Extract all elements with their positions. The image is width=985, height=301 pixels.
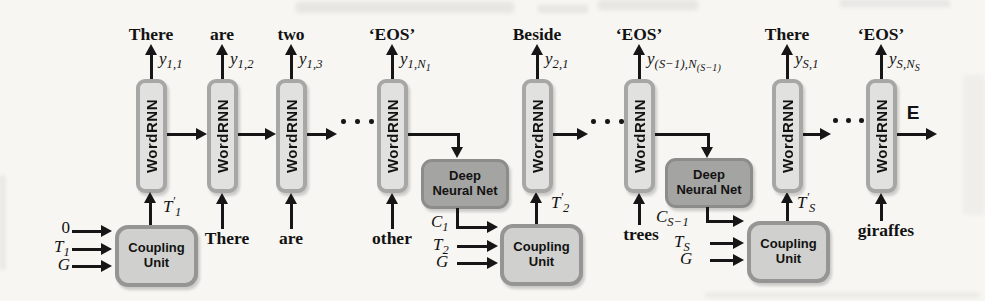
wordrnn-label: WordRNN <box>384 99 401 173</box>
arrow-line <box>638 54 641 79</box>
arrow-line <box>290 54 293 79</box>
deep-neural-net-2: Deep Neural Net <box>665 158 753 208</box>
arrow-line <box>408 133 460 136</box>
y-label-1-N1: y1,N1 <box>400 49 431 73</box>
arrow-line <box>238 133 266 136</box>
top-word-6: ‘EOS’ <box>584 24 694 45</box>
bottom-word-8: giraffes <box>831 220 941 241</box>
arrow-line <box>391 203 394 229</box>
arrow-line <box>710 242 734 245</box>
top-word-5: Beside <box>482 24 592 45</box>
top-word-4: ‘EOS’ <box>337 24 447 45</box>
arrow-line <box>221 54 224 79</box>
wordrnn-label: WordRNN <box>631 99 648 173</box>
arrow-line <box>880 203 883 221</box>
y-label-1-2: y1,2 <box>230 49 254 72</box>
arrow-head-right <box>487 221 498 233</box>
arrow-line <box>290 203 293 229</box>
arrow-line <box>167 133 197 136</box>
t-prime-1-label: T′1 <box>163 194 182 220</box>
wordrnn-label: WordRNN <box>529 99 546 173</box>
top-word-8: ‘EOS’ <box>826 24 936 45</box>
cu2-input-g-label: G <box>436 252 448 275</box>
t-prime-s-label: T′S <box>797 190 816 216</box>
arrow-head-right <box>733 215 744 227</box>
scan-artifact <box>598 0 698 10</box>
scan-artifact <box>963 75 985 215</box>
arrow-line <box>457 245 488 248</box>
arrow-head-right <box>733 237 744 249</box>
y-label-2-1: y2,1 <box>545 49 569 72</box>
arrow-line <box>149 202 152 225</box>
wordrnn-label: WordRNN <box>214 99 231 173</box>
wordrnn-label: WordRNN <box>779 99 796 173</box>
wordrnn-box-5: WordRNN <box>522 79 553 193</box>
coupling-unit-2: Coupling Unit <box>500 224 583 286</box>
arrow-line <box>72 230 102 233</box>
coupling-unit-3: Coupling Unit <box>747 221 830 283</box>
wordrnn-box-8: WordRNN <box>866 79 897 193</box>
arrow-line <box>535 202 538 224</box>
wordrnn-label: WordRNN <box>873 99 890 173</box>
arrow-line <box>456 208 459 228</box>
arrow-line <box>72 248 102 251</box>
arrow-head-right <box>733 254 744 266</box>
t-prime-2-label: T′2 <box>551 190 570 216</box>
arrow-line <box>150 54 153 79</box>
arrow-line <box>307 133 327 136</box>
top-word-3: two <box>236 24 346 45</box>
deep-neural-net-1: Deep Neural Net <box>421 159 509 209</box>
arrow-line <box>638 203 641 225</box>
scan-artifact <box>705 293 980 297</box>
wordrnn-box-3: WordRNN <box>276 79 307 193</box>
cu1-input-g-label: G <box>42 255 70 278</box>
wordrnn-box-1: WordRNN <box>136 79 167 193</box>
figure-canvas: There y1,1 WordRNN are y1,2 WordRNN two … <box>0 0 985 301</box>
wordrnn-label: WordRNN <box>143 99 160 173</box>
y-label-1-3: y1,3 <box>299 49 323 72</box>
scan-artifact <box>538 5 588 13</box>
arrow-line <box>707 133 710 148</box>
arrow-head-right <box>101 243 112 255</box>
arrow-line <box>897 133 927 136</box>
arrow-head-right <box>101 225 112 237</box>
y-label-S-1: y(S−1),N(S−1) <box>647 49 721 73</box>
arrow-head-down <box>451 147 463 158</box>
wordrnn-box-4: WordRNN <box>377 79 408 193</box>
arrow-head-right <box>487 240 498 252</box>
arrow-head-right <box>487 257 498 269</box>
arrow-line <box>536 54 539 79</box>
arrow-head-down <box>701 147 713 158</box>
arrow-line <box>553 133 578 136</box>
y-label-S-NS: yS,NS <box>889 49 920 73</box>
arrow-head-right <box>577 128 588 140</box>
wordrnn-box-2: WordRNN <box>207 79 238 193</box>
bottom-word-3: are <box>236 228 346 249</box>
wordrnn-label: WordRNN <box>283 99 300 173</box>
arrow-head-right <box>101 260 112 272</box>
arrow-head-right <box>265 128 276 140</box>
arrow-head-right <box>820 128 831 140</box>
arrow-line <box>456 226 488 229</box>
scan-artifact <box>840 0 950 7</box>
end-label: E <box>898 102 928 124</box>
scan-artifact <box>0 175 5 270</box>
arrow-line <box>457 262 488 265</box>
y-label-1-1: y1,1 <box>159 49 183 72</box>
arrow-line <box>72 265 102 268</box>
y-label-S1: yS,1 <box>795 49 819 72</box>
arrow-line <box>786 202 789 221</box>
arrow-line <box>786 54 789 79</box>
arrow-line <box>655 133 710 136</box>
coupling-unit-1: Coupling Unit <box>115 225 198 287</box>
arrow-line <box>391 54 394 79</box>
scan-artifact <box>296 2 514 13</box>
arrow-line <box>457 133 460 148</box>
cu3-input-g-label: G <box>680 249 692 272</box>
arrow-head-right <box>196 128 207 140</box>
arrow-line <box>803 133 821 136</box>
wordrnn-box-7: WordRNN <box>772 79 803 193</box>
arrow-head-right <box>326 128 337 140</box>
c-s-1-label: CS−1 <box>656 207 689 230</box>
arrow-head-right <box>926 128 937 140</box>
